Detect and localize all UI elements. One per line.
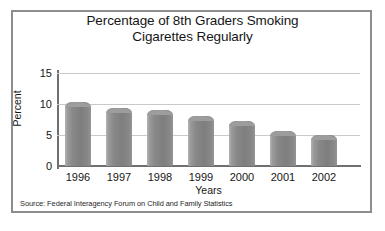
y-axis-ticks: 15 10 5 0 bbox=[22, 0, 52, 231]
chart-title-line-1: Percentage of 8th Graders Smoking bbox=[0, 13, 385, 29]
plot-area bbox=[57, 73, 360, 166]
chart-title: Percentage of 8th Graders Smoking Cigare… bbox=[0, 13, 385, 44]
bar-1997[interactable] bbox=[106, 108, 132, 166]
x-tick-label-1998: 1998 bbox=[138, 171, 182, 183]
bar-top-cap bbox=[270, 131, 296, 136]
bar-top-cap bbox=[106, 108, 132, 113]
bar-1999[interactable] bbox=[188, 116, 214, 166]
chart-title-line-2: Cigarettes Regularly bbox=[0, 29, 385, 45]
x-tick-label-2000: 2000 bbox=[220, 171, 264, 183]
bar-2002[interactable] bbox=[311, 135, 337, 166]
bar-top-cap bbox=[65, 102, 91, 107]
x-tick-label-1996: 1996 bbox=[56, 171, 100, 183]
x-tick-label-1997: 1997 bbox=[97, 171, 141, 183]
gridline-10 bbox=[57, 104, 360, 105]
y-tick-label-15: 15 bbox=[26, 68, 52, 79]
x-tick-label-2002: 2002 bbox=[302, 171, 346, 183]
gridline-15 bbox=[57, 73, 360, 74]
bar-top-cap bbox=[229, 121, 255, 126]
chart-figure: Percentage of 8th Graders Smoking Cigare… bbox=[0, 0, 385, 231]
y-tick-label-10: 10 bbox=[26, 99, 52, 110]
source-note: Source: Federal Interagency Forum on Chi… bbox=[20, 199, 232, 208]
x-tick-label-2001: 2001 bbox=[261, 171, 305, 183]
bar-top-cap bbox=[311, 135, 337, 140]
bar-1996[interactable] bbox=[65, 102, 91, 167]
y-axis-label: Percent bbox=[12, 79, 23, 139]
bar-2000[interactable] bbox=[229, 121, 255, 166]
x-axis-label: Years bbox=[57, 185, 360, 196]
y-tick-label-0: 0 bbox=[26, 161, 52, 172]
bar-2001[interactable] bbox=[270, 131, 296, 166]
y-tick-label-5: 5 bbox=[26, 130, 52, 141]
bar-top-cap bbox=[147, 110, 173, 115]
bar-top-cap bbox=[188, 116, 214, 121]
x-tick-label-1999: 1999 bbox=[179, 171, 223, 183]
bar-1998[interactable] bbox=[147, 110, 173, 166]
